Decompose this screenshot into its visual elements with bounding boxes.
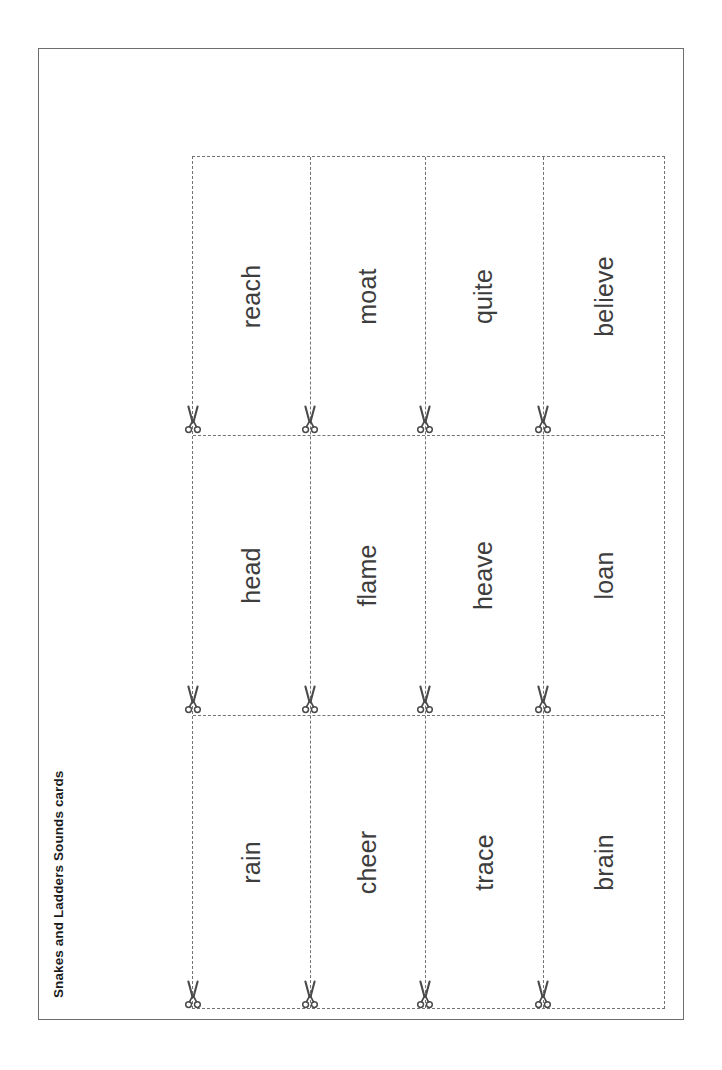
- word-card[interactable]: loan: [543, 435, 666, 715]
- word-card[interactable]: heave: [425, 435, 543, 715]
- word-card-label: head: [237, 547, 266, 603]
- word-card[interactable]: cheer: [310, 715, 425, 1010]
- word-card-label: brain: [590, 834, 619, 891]
- word-card-label: flame: [353, 544, 382, 606]
- cut-grid: reach moat quite believe head flame heav…: [192, 156, 665, 1009]
- word-card[interactable]: head: [193, 435, 310, 715]
- word-card[interactable]: trace: [425, 715, 543, 1010]
- word-card-label: quite: [470, 268, 499, 323]
- word-card-label: trace: [470, 834, 499, 891]
- word-card[interactable]: moat: [310, 157, 425, 435]
- word-card-label: reach: [237, 264, 266, 328]
- word-card[interactable]: brain: [543, 715, 666, 1010]
- word-card-label: cheer: [353, 831, 382, 895]
- word-card[interactable]: reach: [193, 157, 310, 435]
- word-card-label: heave: [470, 540, 499, 609]
- word-card[interactable]: flame: [310, 435, 425, 715]
- worksheet-page: reach moat quite believe head flame heav…: [38, 48, 684, 1020]
- word-card-label: believe: [590, 256, 619, 337]
- word-card[interactable]: rain: [193, 715, 310, 1010]
- word-card-label: moat: [353, 268, 382, 324]
- word-card-label: rain: [237, 841, 266, 884]
- word-card-label: loan: [590, 551, 619, 599]
- word-card[interactable]: quite: [425, 157, 543, 435]
- word-card[interactable]: believe: [543, 157, 666, 435]
